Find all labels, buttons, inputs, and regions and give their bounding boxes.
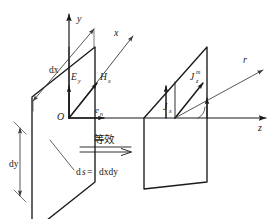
origin-label: O xyxy=(57,111,64,122)
ray-r xyxy=(175,70,263,118)
area-label-ds: d s = dxdy xyxy=(76,167,118,177)
svg-text:e: e xyxy=(95,105,99,115)
svg-text:E: E xyxy=(70,72,77,82)
dimension-label-dx: dx xyxy=(49,65,59,75)
field-label-E: E y xyxy=(70,72,81,84)
dimension-label-dy: dy xyxy=(9,159,19,169)
axis-label-y: y xyxy=(76,13,82,24)
normal-label-e-n: e n xyxy=(95,105,103,117)
svg-text:s: s xyxy=(82,167,86,177)
vector-H-x xyxy=(69,83,97,118)
svg-text:x: x xyxy=(168,108,172,114)
svg-text:H: H xyxy=(99,72,108,82)
svg-text:d: d xyxy=(76,167,81,177)
svg-text:n: n xyxy=(100,111,103,117)
axis-label-r: r xyxy=(243,54,247,65)
svg-text:dxdy: dxdy xyxy=(99,167,118,177)
current-label-Jzm: J z m xyxy=(190,69,201,84)
svg-text:m: m xyxy=(196,69,201,75)
huygens-equivalence-diagram: y x z r O dx dy E y H x e n d s = dxdy xyxy=(0,0,276,219)
equivalence-caption: 等效 xyxy=(94,133,115,145)
svg-text:J: J xyxy=(163,102,168,112)
svg-text:y: y xyxy=(77,78,81,84)
figure-canvas: y x z r O dx dy E y H x e n d s = dxdy xyxy=(0,0,276,219)
svg-text:J: J xyxy=(190,72,195,82)
leader-ds xyxy=(50,140,74,170)
svg-text:z: z xyxy=(195,78,199,84)
current-label-Jx: J x xyxy=(163,102,172,114)
svg-text:=: = xyxy=(87,167,92,177)
vector-J-z-m xyxy=(175,83,203,118)
axis-label-x: x xyxy=(113,27,119,38)
element-surface-left xyxy=(32,47,95,219)
field-label-H: H x xyxy=(99,72,111,84)
svg-text:x: x xyxy=(107,78,111,84)
equivalence-arrow xyxy=(80,147,131,152)
axis-label-z: z xyxy=(257,122,262,133)
